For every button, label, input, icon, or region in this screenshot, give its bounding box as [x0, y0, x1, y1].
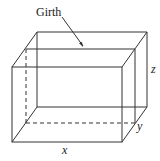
girth-loop: [26, 49, 135, 123]
front-face: [12, 67, 122, 142]
box-drawing: [0, 0, 160, 161]
y-label: y: [137, 119, 142, 134]
arrow-head-icon: [79, 42, 83, 47]
girth-label: Girth: [36, 5, 61, 20]
z-label: z: [151, 62, 156, 77]
box-diagram: Girth x y z: [0, 0, 160, 161]
x-label: x: [62, 143, 67, 158]
